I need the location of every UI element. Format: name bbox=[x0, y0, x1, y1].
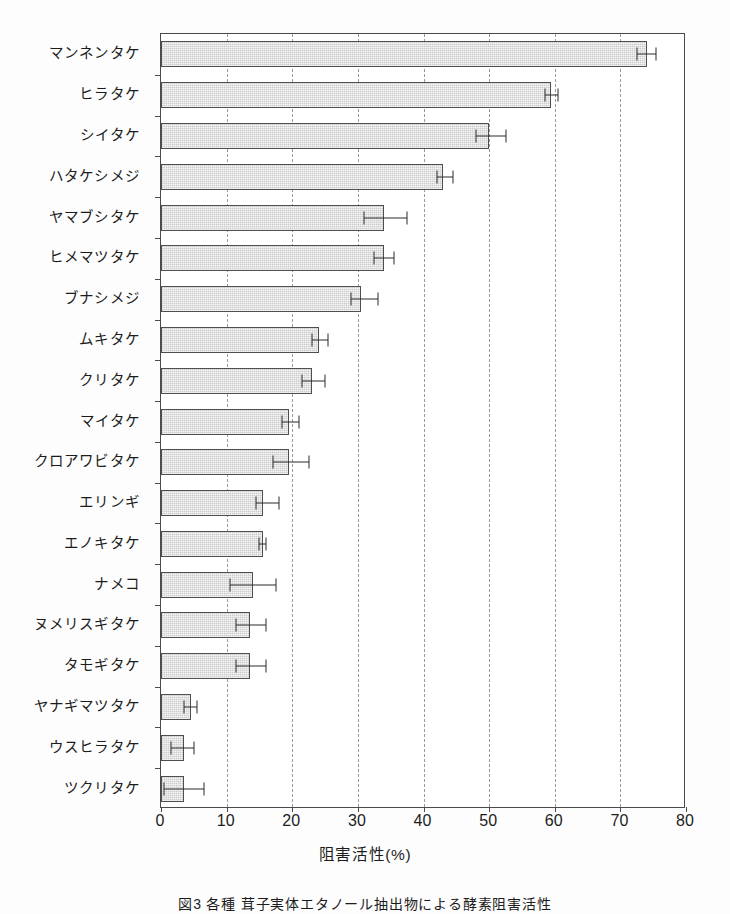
bar-3 bbox=[161, 164, 443, 190]
error-cap-3-high bbox=[453, 170, 454, 183]
bar-1 bbox=[161, 82, 551, 108]
y-tick-0 bbox=[155, 75, 161, 76]
bar-7 bbox=[161, 327, 319, 353]
error-bar-18 bbox=[164, 788, 203, 789]
error-bar-10 bbox=[273, 462, 309, 463]
x-tick-label-70: 70 bbox=[610, 812, 628, 830]
category-label-1: ヒラタケ bbox=[79, 87, 140, 102]
y-tick-12 bbox=[155, 564, 161, 565]
category-label-2: シイタケ bbox=[80, 128, 140, 143]
error-cap-8-high bbox=[325, 374, 326, 387]
bar-11 bbox=[161, 490, 263, 516]
figure-caption: 図3 各種 茸子実体エタノール抽出物による酵素阻害活性 bbox=[0, 893, 730, 914]
error-cap-15-high bbox=[266, 660, 267, 673]
y-tick-2 bbox=[155, 156, 161, 157]
error-cap-14-high bbox=[266, 619, 267, 632]
error-bar-2 bbox=[476, 135, 506, 136]
error-cap-7-low bbox=[311, 333, 312, 346]
error-bar-13 bbox=[230, 584, 276, 585]
error-cap-18-high bbox=[203, 782, 204, 795]
error-cap-1-high bbox=[558, 89, 559, 102]
error-cap-9-low bbox=[282, 415, 283, 428]
error-bar-1 bbox=[545, 95, 558, 96]
category-label-9: マイタケ bbox=[80, 413, 140, 428]
error-cap-18-low bbox=[164, 782, 165, 795]
gridline-70 bbox=[620, 34, 621, 807]
x-tick-label-60: 60 bbox=[545, 812, 563, 830]
category-axis-labels: マンネンタケヒラタケシイタケハタケシメジヤマブシタケヒメマツタケブナシメジムキタ… bbox=[0, 33, 150, 808]
category-label-5: ヒメマツタケ bbox=[49, 250, 140, 265]
error-bar-15 bbox=[236, 666, 266, 667]
error-bar-9 bbox=[282, 421, 298, 422]
y-tick-15 bbox=[155, 687, 161, 688]
error-bar-4 bbox=[364, 217, 407, 218]
error-cap-16-low bbox=[183, 701, 184, 714]
error-cap-12-low bbox=[259, 537, 260, 550]
gridline-50 bbox=[489, 34, 490, 807]
x-tick-label-10: 10 bbox=[217, 812, 235, 830]
error-cap-2-low bbox=[476, 129, 477, 142]
category-label-13: ナメコ bbox=[94, 576, 140, 591]
y-tick-17 bbox=[155, 768, 161, 769]
error-cap-4-low bbox=[364, 211, 365, 224]
y-tick-7 bbox=[155, 360, 161, 361]
category-label-11: エリンギ bbox=[79, 495, 140, 510]
y-tick-5 bbox=[155, 279, 161, 280]
error-cap-16-high bbox=[197, 701, 198, 714]
gridline-60 bbox=[555, 34, 556, 807]
error-bar-11 bbox=[256, 503, 279, 504]
bar-2 bbox=[161, 123, 489, 149]
bar-0 bbox=[161, 41, 647, 67]
category-label-8: クリタケ bbox=[79, 372, 140, 387]
bar-9 bbox=[161, 409, 289, 435]
category-label-6: ブナシメジ bbox=[64, 291, 140, 306]
error-cap-7-high bbox=[328, 333, 329, 346]
error-bar-3 bbox=[437, 176, 453, 177]
bar-8 bbox=[161, 368, 312, 394]
error-cap-14-low bbox=[236, 619, 237, 632]
y-tick-10 bbox=[155, 483, 161, 484]
x-tick-label-50: 50 bbox=[479, 812, 497, 830]
error-cap-6-high bbox=[377, 293, 378, 306]
error-cap-0-high bbox=[656, 48, 657, 61]
x-tick-label-30: 30 bbox=[348, 812, 366, 830]
y-tick-13 bbox=[155, 605, 161, 606]
y-tick-4 bbox=[155, 238, 161, 239]
error-cap-11-high bbox=[279, 497, 280, 510]
error-bar-0 bbox=[637, 54, 657, 55]
gridline-40 bbox=[424, 34, 425, 807]
category-label-18: ツクリタケ bbox=[64, 780, 140, 795]
y-tick-1 bbox=[155, 116, 161, 117]
error-cap-10-high bbox=[308, 456, 309, 469]
x-tick-label-40: 40 bbox=[414, 812, 432, 830]
y-tick-16 bbox=[155, 727, 161, 728]
category-label-4: ヤマブシタケ bbox=[49, 209, 140, 224]
error-cap-17-low bbox=[170, 741, 171, 754]
error-cap-4-high bbox=[407, 211, 408, 224]
category-label-15: タモギタケ bbox=[64, 658, 140, 673]
bar-5 bbox=[161, 245, 384, 271]
x-tick-label-0: 0 bbox=[156, 812, 165, 830]
error-cap-1-low bbox=[544, 89, 545, 102]
y-tick-9 bbox=[155, 442, 161, 443]
error-cap-13-high bbox=[275, 578, 276, 591]
gridline-30 bbox=[358, 34, 359, 807]
bar-12 bbox=[161, 531, 263, 557]
x-axis-title: 阻害活性(%) bbox=[0, 842, 730, 864]
bar-6 bbox=[161, 286, 361, 312]
error-bar-17 bbox=[171, 747, 194, 748]
x-tick-label-20: 20 bbox=[282, 812, 300, 830]
error-bar-16 bbox=[184, 707, 197, 708]
category-label-7: ムキタケ bbox=[79, 332, 140, 347]
category-label-14: ヌメリスギタケ bbox=[34, 617, 140, 632]
bar-10 bbox=[161, 449, 289, 475]
error-bar-6 bbox=[351, 299, 377, 300]
error-cap-11-low bbox=[256, 497, 257, 510]
category-label-10: クロアワビタケ bbox=[34, 454, 140, 469]
y-tick-14 bbox=[155, 646, 161, 647]
figure-container: マンネンタケヒラタケシイタケハタケシメジヤマブシタケヒメマツタケブナシメジムキタ… bbox=[0, 0, 730, 914]
category-label-17: ウスヒラタケ bbox=[49, 740, 140, 755]
error-cap-0-low bbox=[636, 48, 637, 61]
error-cap-10-low bbox=[272, 456, 273, 469]
y-tick-3 bbox=[155, 197, 161, 198]
